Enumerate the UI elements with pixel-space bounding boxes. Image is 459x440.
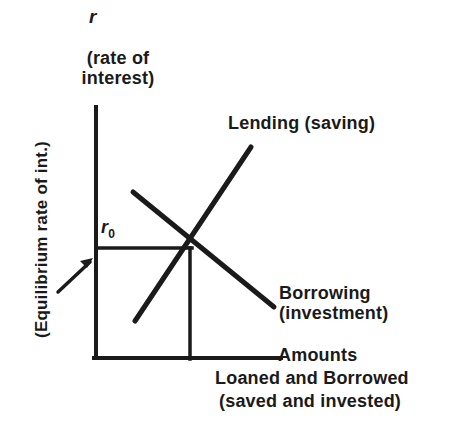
borrowing-curve-label-line1: Borrowing: [279, 283, 371, 303]
borrowing-curve-label-line2: (investment): [279, 303, 388, 323]
x-axis-caption-line3: (saved and invested): [219, 391, 401, 411]
lending-curve: [135, 147, 251, 321]
lending-curve-label: Lending (saving): [228, 113, 375, 133]
borrowing-curve-label: Borrowing(investment): [279, 283, 388, 323]
equilibrium-rate-tick-label: r0: [101, 217, 115, 241]
x-axis-caption-line2: Loaned and Borrowed: [215, 368, 409, 388]
equilibrium-rate-note: (Equilibrium rate of int.): [32, 135, 51, 345]
y-axis-symbol: r: [89, 6, 96, 27]
y-axis-caption: (rate of interest): [52, 48, 184, 88]
x-axis-caption-line1: Amounts: [278, 345, 357, 365]
figure-canvas: r (rate of interest) (Equilibrium rate o…: [0, 0, 459, 440]
equilibrium-rate-tick-subscript: 0: [108, 227, 115, 241]
equilibrium-note-arrow: [58, 258, 93, 292]
